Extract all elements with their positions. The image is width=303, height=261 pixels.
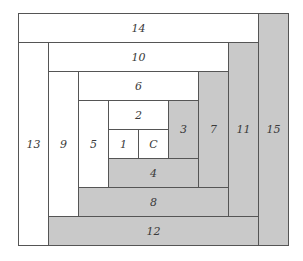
block-1: 1 (108, 129, 139, 159)
block-label: 8 (150, 196, 157, 209)
block-6: 6 (78, 71, 199, 101)
block-label: 15 (267, 123, 281, 136)
block-center: C (138, 129, 169, 159)
block-label: 6 (135, 80, 142, 93)
block-2: 2 (108, 100, 169, 130)
block-label: 5 (90, 138, 97, 151)
block-10: 10 (48, 42, 229, 72)
block-label: 3 (180, 123, 187, 136)
block-12: 12 (48, 216, 259, 246)
block-3: 3 (168, 100, 199, 159)
block-label: 7 (210, 123, 217, 136)
block-7: 7 (198, 71, 229, 188)
block-13: 13 (18, 42, 49, 246)
block-label: 12 (147, 225, 161, 238)
block-label: 14 (132, 22, 146, 35)
block-14: 14 (18, 13, 259, 43)
block-9: 9 (48, 71, 79, 217)
block-15: 15 (258, 13, 289, 246)
block-label: 10 (132, 51, 146, 64)
log-cabin-diagram: 14 15 13 10 11 12 9 6 7 8 5 2 3 4 1 C (0, 0, 303, 261)
block-label: 4 (150, 167, 157, 180)
block-label: C (149, 138, 157, 151)
block-4: 4 (108, 158, 199, 188)
block-label: 1 (120, 138, 127, 151)
block-11: 11 (228, 42, 259, 217)
block-5: 5 (78, 100, 109, 188)
block-label: 11 (237, 123, 251, 136)
block-8: 8 (78, 187, 229, 217)
block-label: 9 (60, 138, 67, 151)
block-label: 13 (27, 138, 41, 151)
block-label: 2 (135, 109, 142, 122)
